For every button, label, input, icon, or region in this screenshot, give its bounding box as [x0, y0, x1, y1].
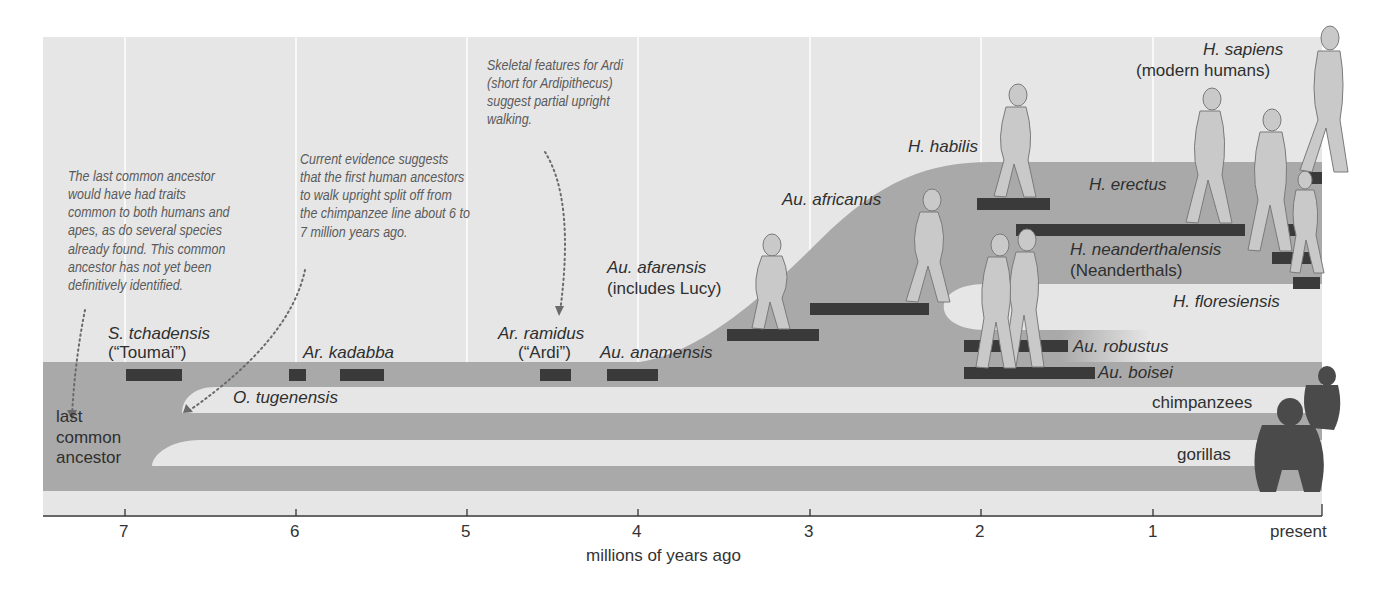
split-note-line: Current evidence suggests — [300, 150, 470, 168]
bar-au-boisei — [964, 367, 1095, 379]
bar-o-tugenensis — [289, 369, 306, 381]
label-modern-humans: (modern humans) — [1136, 61, 1270, 80]
label-h-floresiensis: H. floresiensis — [1173, 292, 1280, 311]
lca-label-line: ancestor — [56, 448, 121, 469]
label-au-boisei: Au. boisei — [1098, 363, 1173, 382]
label-ar-ramidus: Ar. ramidus — [498, 324, 584, 343]
tick-4: 4 — [632, 522, 641, 541]
label-ardi: (“Ardi”) — [518, 343, 571, 362]
label-gorillas: gorillas — [1177, 445, 1231, 464]
label-includes-lucy: (includes Lucy) — [607, 279, 721, 298]
bar-au-anamensis — [607, 369, 658, 381]
label-toumai: (“Toumaï”) — [108, 343, 186, 362]
ardi-note-line: Skeletal features for Ardi — [487, 56, 623, 74]
lca-note-line: apes, as do several species — [68, 221, 230, 239]
bar-au-africanus — [810, 303, 929, 315]
split-note-line: that the first human ancestors — [300, 168, 470, 186]
gorilla-split-gap — [152, 440, 1322, 466]
label-au-afarensis: Au. afarensis — [607, 258, 706, 277]
lca-note-line: common to both humans and — [68, 203, 230, 221]
label-last-common-ancestor: last common ancestor — [56, 407, 121, 469]
split-note-line: to walk upright split off from — [300, 186, 470, 204]
lca-label-line: common — [56, 428, 121, 449]
bar-au-afarensis — [727, 329, 819, 341]
tick-1: 1 — [1148, 522, 1157, 541]
tick-3: 3 — [804, 522, 813, 541]
lca-note: The last common ancestor would have had … — [68, 167, 230, 294]
lca-note-line: The last common ancestor — [68, 167, 230, 185]
split-note: Current evidence suggests that the first… — [300, 150, 470, 241]
x-axis-label: millions of years ago — [586, 546, 741, 565]
split-note-line: the chimpanzee line about 6 to — [300, 204, 470, 222]
lca-note-line: ancestor has not yet been — [68, 258, 230, 276]
label-h-neanderthalensis: H. neanderthalensis — [1070, 240, 1221, 259]
ardi-note: Skeletal features for Ardi (short for Ar… — [487, 56, 623, 129]
lca-note-line: already found. This common — [68, 240, 230, 258]
label-h-sapiens: H. sapiens — [1203, 40, 1283, 59]
label-au-africanus: Au. africanus — [782, 190, 881, 209]
label-ar-kadabba: Ar. kadabba — [303, 343, 394, 362]
lca-note-line: definitively identified. — [68, 276, 230, 294]
label-au-anamensis: Au. anamensis — [600, 343, 712, 362]
tick-7: 7 — [119, 522, 128, 541]
ardi-note-line: (short for Ardipithecus) — [487, 74, 623, 92]
bar-ar-ramidus — [540, 369, 571, 381]
chimp-split-gap — [182, 387, 1322, 413]
lca-label-line: last — [56, 407, 121, 428]
label-o-tugenensis: O. tugenensis — [233, 388, 338, 407]
tick-2: 2 — [975, 522, 984, 541]
label-au-robustus: Au. robustus — [1073, 337, 1168, 356]
split-note-line: 7 million years ago. — [300, 223, 470, 241]
ardi-note-line: walking. — [487, 110, 623, 128]
label-h-erectus: H. erectus — [1089, 175, 1166, 194]
hominin-timeline-diagram: The last common ancestor would have had … — [0, 0, 1389, 595]
bar-s-tchadensis — [126, 369, 182, 381]
label-chimpanzees: chimpanzees — [1152, 393, 1252, 412]
lca-note-line: would have had traits — [68, 185, 230, 203]
tick-5: 5 — [461, 522, 470, 541]
bar-h-floresiensis — [1293, 277, 1320, 289]
label-neanderthals: (Neanderthals) — [1070, 261, 1182, 280]
label-s-tchadensis: S. tchadensis — [108, 324, 210, 343]
bar-h-habilis — [977, 198, 1050, 210]
ardi-note-line: suggest partial upright — [487, 92, 623, 110]
tick-present: present — [1270, 522, 1327, 541]
bar-ar-kadabba — [340, 369, 384, 381]
label-h-habilis: H. habilis — [908, 137, 978, 156]
bar-h-erectus — [1016, 224, 1245, 236]
tick-6: 6 — [290, 522, 299, 541]
